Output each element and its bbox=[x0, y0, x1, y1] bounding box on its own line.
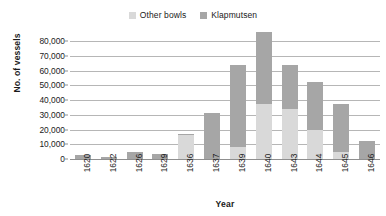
bar-group[interactable] bbox=[70, 41, 96, 159]
y-axis-tick-label: 70,000 bbox=[39, 51, 65, 60]
x-axis-tick-slot: 1626 bbox=[122, 161, 148, 197]
bar-segment[interactable] bbox=[204, 113, 220, 159]
chart-legend: Other bowls Klapmutsen bbox=[0, 10, 386, 20]
y-axis-tick-mark bbox=[65, 85, 68, 86]
bar-segment[interactable] bbox=[256, 104, 272, 159]
x-axis-title: Year bbox=[70, 199, 380, 209]
x-axis-tick-slot: 1646 bbox=[354, 161, 380, 197]
bar-group[interactable] bbox=[328, 41, 354, 159]
y-axis-tick-mark bbox=[65, 114, 68, 115]
x-axis-tick-slot: 1645 bbox=[328, 161, 354, 197]
x-axis-tick-slot: 1643 bbox=[277, 161, 303, 197]
x-axis-tick-slot: 1629 bbox=[147, 161, 173, 197]
y-axis-tick-label: 20,000 bbox=[39, 125, 65, 134]
y-axis-tick-mark bbox=[65, 55, 68, 56]
x-axis-tick-label: 1639 bbox=[238, 154, 247, 173]
bar-group[interactable] bbox=[302, 41, 328, 159]
y-axis-tick-label: 40,000 bbox=[39, 96, 65, 105]
y-axis-tick-label: 80,000 bbox=[39, 37, 65, 46]
legend-item-klapmutsen: Klapmutsen bbox=[200, 10, 257, 20]
x-axis-tick-slot: 1644 bbox=[302, 161, 328, 197]
bar-segment[interactable] bbox=[333, 104, 349, 151]
bar-group[interactable] bbox=[96, 41, 122, 159]
x-axis-tick-label: 1643 bbox=[290, 154, 299, 173]
y-axis-tick-label: 10,000 bbox=[39, 140, 65, 149]
y-axis-title: No. of vessels bbox=[12, 18, 22, 108]
x-axis-tick-label: 1640 bbox=[264, 154, 273, 173]
y-axis-tick-mark bbox=[65, 129, 68, 130]
x-axis-tick-label: 1644 bbox=[315, 154, 324, 173]
y-axis-tick-mark bbox=[65, 100, 68, 101]
x-axis-tick-label: 1620 bbox=[83, 154, 92, 173]
legend-label-other-bowls: Other bowls bbox=[140, 10, 186, 20]
y-axis-tick-mark bbox=[65, 159, 68, 160]
y-axis-tick-label: 50,000 bbox=[39, 81, 65, 90]
x-axis-tick-label: 1636 bbox=[186, 154, 195, 173]
x-axis-tick-slot: 1640 bbox=[251, 161, 277, 197]
x-axis-tick-label: 1637 bbox=[212, 154, 221, 173]
bar-group[interactable] bbox=[147, 41, 173, 159]
bar-stack[interactable] bbox=[307, 82, 323, 159]
x-axis-tick-label: 1626 bbox=[135, 154, 144, 173]
x-axis-tick-label: 1629 bbox=[160, 154, 169, 173]
y-axis-tick-labels: 80,00070,00060,00050,00040,00030,00020,0… bbox=[22, 41, 68, 159]
bar-segment[interactable] bbox=[307, 82, 323, 130]
bar-segment[interactable] bbox=[282, 65, 298, 109]
bar-stack[interactable] bbox=[282, 65, 298, 159]
legend-item-other-bowls: Other bowls bbox=[129, 10, 186, 20]
y-axis-tick-mark bbox=[65, 70, 68, 71]
bar-stack[interactable] bbox=[204, 113, 220, 159]
bar-group[interactable] bbox=[354, 41, 380, 159]
y-axis-tick-label: 60,000 bbox=[39, 66, 65, 75]
bar-series-container bbox=[70, 41, 380, 159]
x-axis-tick-label: 1646 bbox=[367, 154, 376, 173]
bar-stack[interactable] bbox=[333, 104, 349, 159]
bar-group[interactable] bbox=[199, 41, 225, 159]
bar-stack[interactable] bbox=[230, 65, 246, 159]
x-axis-tick-slot: 1639 bbox=[225, 161, 251, 197]
bar-chart: Other bowls Klapmutsen No. of vessels 80… bbox=[0, 0, 386, 216]
bar-segment[interactable] bbox=[256, 32, 272, 104]
y-axis-tick-mark bbox=[65, 41, 68, 42]
bar-group[interactable] bbox=[173, 41, 199, 159]
bar-stack[interactable] bbox=[256, 32, 272, 159]
legend-label-klapmutsen: Klapmutsen bbox=[211, 10, 257, 20]
x-axis-tick-slot: 1637 bbox=[199, 161, 225, 197]
bar-group[interactable] bbox=[277, 41, 303, 159]
x-axis-tick-label: 1645 bbox=[341, 154, 350, 173]
legend-swatch-other-bowls bbox=[129, 12, 136, 19]
x-axis-tick-slot: 1620 bbox=[70, 161, 96, 197]
bar-segment[interactable] bbox=[230, 65, 246, 147]
x-axis-tick-label: 1622 bbox=[109, 154, 118, 173]
legend-swatch-klapmutsen bbox=[200, 12, 207, 19]
bar-segment[interactable] bbox=[282, 109, 298, 159]
x-axis-tick-slot: 1622 bbox=[96, 161, 122, 197]
x-axis-tick-slot: 1636 bbox=[173, 161, 199, 197]
bar-group[interactable] bbox=[251, 41, 277, 159]
y-axis-tick-mark bbox=[65, 144, 68, 145]
bar-group[interactable] bbox=[122, 41, 148, 159]
x-axis-tick-labels: 1620162216261629163616371639164016431644… bbox=[70, 161, 380, 197]
plot-area bbox=[70, 41, 380, 159]
y-axis-tick-label: 30,000 bbox=[39, 110, 65, 119]
bar-group[interactable] bbox=[225, 41, 251, 159]
